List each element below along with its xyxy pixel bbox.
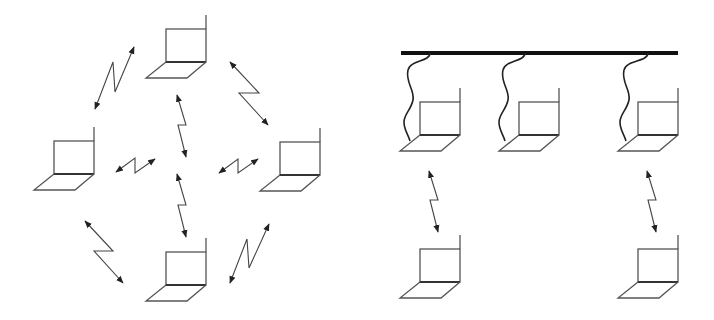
wireless-link-icon — [647, 171, 656, 232]
laptop-icon-left — [34, 127, 94, 190]
laptop-icon-bottom — [146, 238, 206, 301]
diagram-svg — [0, 0, 714, 320]
laptop-icon-client3 — [618, 235, 678, 298]
laptop-icon-right — [260, 128, 320, 191]
wireless-link-icon — [429, 171, 438, 232]
wired-cable-icon — [404, 53, 430, 141]
ad-hoc-panel — [34, 15, 320, 301]
wired-cable-icon — [499, 53, 525, 141]
wireless-link-icon — [95, 47, 134, 109]
laptop-icon-ap1 — [400, 88, 460, 151]
laptop-icon-top — [146, 15, 206, 78]
network-diagram — [0, 0, 714, 320]
wireless-link-icon — [177, 174, 186, 237]
wireless-link-icon — [230, 224, 269, 283]
wireless-link-icon — [177, 95, 186, 157]
laptop-icon-client1 — [400, 235, 460, 298]
wired-cable-icon — [620, 53, 648, 141]
wireless-link-icon — [219, 159, 258, 173]
wireless-link-icon — [85, 221, 123, 283]
laptop-icon-ap3 — [618, 88, 678, 151]
wireless-link-icon — [230, 62, 268, 125]
infrastructure-panel — [400, 53, 678, 298]
wireless-link-icon — [116, 158, 155, 173]
